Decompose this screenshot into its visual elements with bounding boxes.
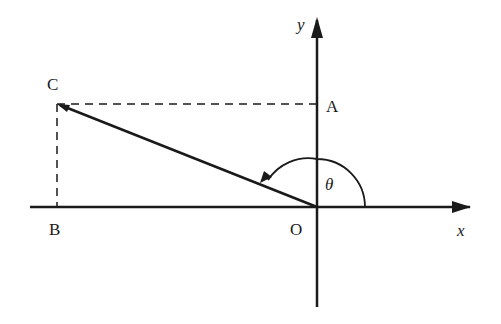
origin-label: O	[290, 220, 302, 239]
x-axis-label: x	[456, 221, 465, 240]
vector-oc-arrow-icon	[57, 104, 70, 112]
point-c-label: C	[47, 75, 58, 94]
angle-arc-arrow-icon	[260, 171, 272, 183]
point-b-label: B	[49, 220, 60, 239]
y-axis-label: y	[295, 15, 305, 34]
point-a-label: A	[326, 97, 339, 116]
x-axis-arrow-icon	[452, 201, 471, 213]
y-axis-arrow-icon	[311, 17, 323, 38]
vector-diagram: y x A C B O θ	[0, 0, 501, 324]
angle-theta-label: θ	[325, 175, 333, 194]
vector-oc	[60, 105, 317, 207]
